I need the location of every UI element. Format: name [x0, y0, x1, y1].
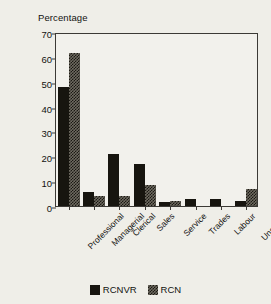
x-axis-tick-mark: [119, 206, 120, 210]
bar-rcn-managerial: [94, 196, 105, 206]
bar-rcnvr-sales: [134, 164, 145, 206]
y-axis-tick-mark: [52, 208, 56, 209]
legend-label: RCN: [161, 284, 182, 295]
y-axis-tick-label: 50: [41, 78, 52, 89]
y-axis-tick-label: 10: [41, 178, 52, 189]
x-axis-tick-mark: [69, 206, 70, 210]
y-axis-tick-label: 20: [41, 153, 52, 164]
bar-rcn-sales: [145, 185, 156, 206]
legend-item-rcnvr[interactable]: RCNVR: [90, 284, 137, 295]
chart-legend: RCNVRRCN: [0, 284, 271, 295]
bars-container: [56, 34, 257, 206]
y-axis-tick-label: 70: [41, 29, 52, 40]
legend-swatch-icon: [148, 285, 158, 295]
bar-rcnvr-trades: [185, 199, 196, 206]
bar-rcn-clerical: [119, 196, 130, 206]
y-axis-tick-label: 30: [41, 128, 52, 139]
x-axis-tick-label: Unskilled: [259, 211, 271, 242]
legend-swatch-icon: [90, 285, 100, 295]
bar-rcnvr-labour: [210, 199, 221, 206]
x-axis-tick-mark: [196, 206, 197, 210]
legend-item-rcn[interactable]: RCN: [148, 284, 182, 295]
bar-group: [159, 34, 181, 206]
bar-rcnvr-service: [159, 202, 170, 206]
bar-rcnvr-professional: [58, 87, 69, 206]
bar-group: [210, 34, 232, 206]
x-axis-tick-label: Trades: [206, 211, 232, 237]
bar-group: [235, 34, 257, 206]
bar-group: [58, 34, 80, 206]
x-axis-tick-label: Service: [181, 211, 208, 238]
y-axis-title: Percentage: [38, 12, 88, 23]
bar-group: [108, 34, 130, 206]
bar-rcn-unskilled: [246, 189, 257, 206]
x-axis-tick-mark: [246, 206, 247, 210]
plot-area: 010203040506070: [55, 33, 258, 207]
bar-group: [185, 34, 207, 206]
bar-group: [83, 34, 105, 206]
bar-rcnvr-clerical: [108, 154, 119, 206]
bar-rcnvr-unskilled: [235, 201, 246, 206]
legend-label: RCNVR: [103, 284, 137, 295]
bar-rcnvr-managerial: [83, 192, 94, 206]
x-axis-tick-label: Labour: [232, 211, 258, 237]
bar-chart-figure: Percentage 010203040506070 ProfessionalM…: [0, 0, 271, 304]
bar-rcn-service: [170, 201, 181, 206]
x-axis-tick-mark: [94, 206, 95, 210]
bar-group: [134, 34, 156, 206]
bar-rcn-professional: [69, 53, 80, 206]
x-axis-tick-mark: [221, 206, 222, 210]
y-axis-tick-label: 60: [41, 53, 52, 64]
y-axis-tick-label: 40: [41, 103, 52, 114]
x-axis-tick-mark: [145, 206, 146, 210]
x-axis-tick-label: Sales: [154, 211, 176, 233]
x-axis-tick-mark: [170, 206, 171, 210]
